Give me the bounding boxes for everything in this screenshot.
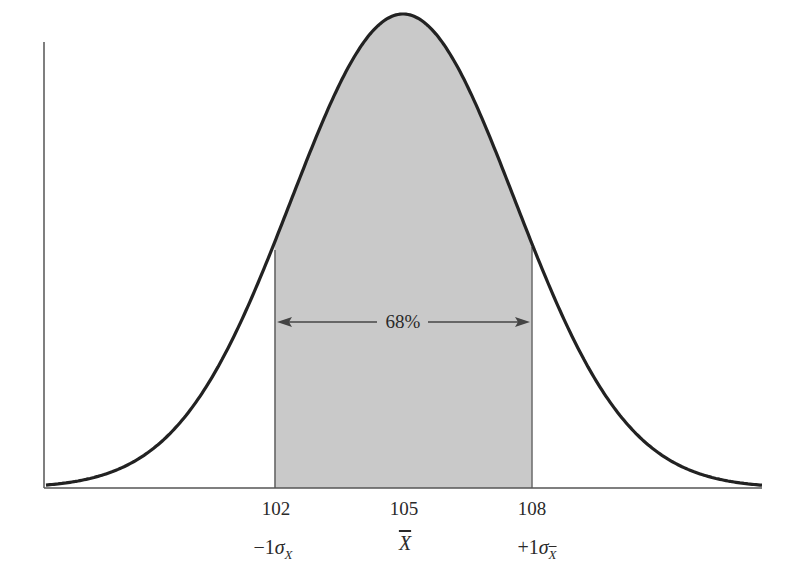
sigma-symbol: σ — [275, 536, 285, 558]
percent-annotation: 68% — [382, 311, 425, 333]
plus-one-prefix: +1 — [517, 536, 538, 558]
x-tick-102: 102 — [262, 498, 291, 520]
sigma-symbol: σ — [539, 536, 549, 558]
x-bar-symbol: X — [399, 532, 411, 554]
shaded-68-percent-region — [275, 14, 532, 488]
sigma-subscript-xbar: X — [549, 547, 557, 562]
minus-one-prefix: −1 — [253, 536, 274, 558]
x-tick-105: 105 — [390, 498, 419, 520]
plus-one-sigma-label: +1σX — [517, 536, 556, 559]
minus-one-sigma-label: −1σX — [253, 536, 292, 559]
mean-label: X — [399, 532, 411, 555]
sigma-subscript: X — [285, 547, 293, 562]
x-tick-108: 108 — [518, 498, 547, 520]
